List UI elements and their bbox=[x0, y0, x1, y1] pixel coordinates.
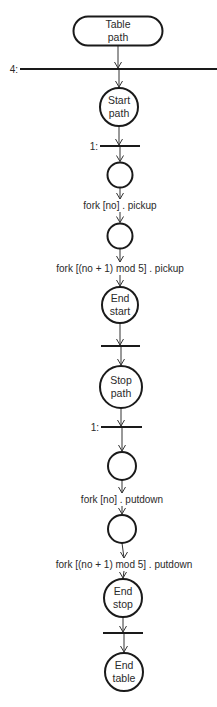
c4-node bbox=[108, 515, 136, 543]
start-path-text: path bbox=[109, 107, 130, 119]
bar-4-label: 4: bbox=[10, 64, 18, 75]
lbl-pickup-no-label: fork [no] . pickup bbox=[83, 200, 157, 211]
table-path-text: Table bbox=[105, 18, 130, 30]
lbl-putdown-no-label: fork [no] . putdown bbox=[81, 494, 163, 505]
c1-node bbox=[108, 163, 133, 188]
end-table-text: table bbox=[113, 672, 136, 684]
c2-node bbox=[108, 224, 133, 249]
end-start-text: start bbox=[110, 305, 131, 317]
nodes: Tablepath4:Startpath1:fork [no] . pickup… bbox=[10, 17, 217, 692]
stop-path-text: path bbox=[111, 387, 132, 399]
end-table-text: End bbox=[115, 659, 134, 671]
end-start-text: End bbox=[111, 292, 130, 304]
lbl-putdown-next-label: fork [(no + 1) mod 5] . putdown bbox=[56, 559, 192, 570]
start-path-text: Start bbox=[108, 94, 130, 106]
c3-node bbox=[108, 452, 136, 480]
bar-1b-label: 1: bbox=[91, 422, 99, 433]
end-stop-text: End bbox=[114, 585, 133, 597]
table-path-text: path bbox=[108, 31, 129, 43]
bar-1a-label: 1: bbox=[90, 141, 98, 152]
flow-diagram: Tablepath4:Startpath1:fork [no] . pickup… bbox=[0, 0, 217, 707]
lbl-pickup-next-label: fork [(no + 1) mod 5] . pickup bbox=[56, 263, 184, 274]
stop-path-text: Stop bbox=[110, 374, 132, 386]
end-stop-text: stop bbox=[113, 598, 133, 610]
